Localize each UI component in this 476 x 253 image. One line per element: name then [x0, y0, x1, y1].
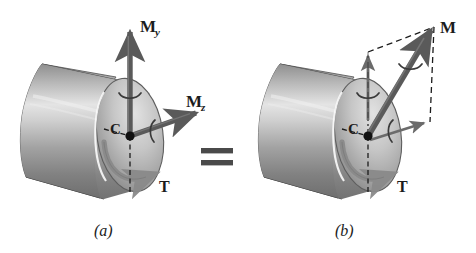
torque-label-a: T — [159, 178, 170, 195]
moment-y-vector-a — [128, 32, 130, 136]
centroid-point-a — [125, 131, 134, 140]
moment-z-label-sub-a: z — [200, 101, 206, 113]
centroid-label-a: C — [110, 121, 121, 137]
equals-sign — [201, 148, 233, 165]
panel-b: M C T (b) — [258, 18, 456, 240]
centroid-label-b: C — [348, 121, 359, 137]
centroid-point-b — [363, 131, 372, 140]
figure-container: M y M z C T (a) = — [0, 0, 476, 253]
moment-z-label-base-a: M — [186, 92, 202, 111]
panel-a: M y M z C T (a) — [20, 17, 206, 240]
torque-label-b: T — [397, 178, 408, 195]
moment-y-label-base-a: M — [140, 17, 156, 36]
resultant-moment-label-b: M — [440, 18, 456, 37]
diagram-canvas: M y M z C T (a) = — [0, 0, 476, 253]
caption-b: (b) — [335, 222, 354, 240]
moment-y-label-sub-a: y — [153, 26, 160, 38]
caption-a: (a) — [94, 222, 113, 240]
